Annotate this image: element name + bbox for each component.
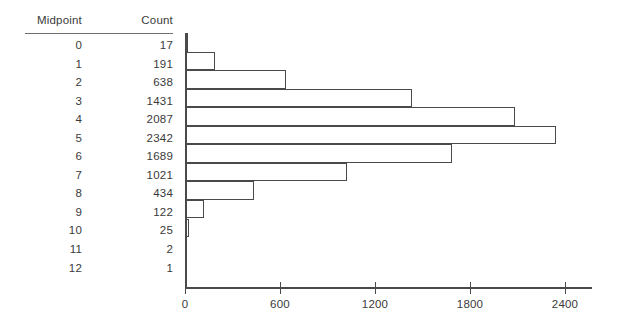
bar [185,144,452,163]
bar [185,200,204,219]
x-axis-tick-label: 1200 [345,298,405,310]
x-axis-tick-label: 2400 [535,298,595,310]
bar [185,163,347,182]
x-axis-tick [375,282,376,294]
x-axis-tick [470,282,471,294]
x-axis-tick [280,282,281,294]
bar [185,52,215,71]
bar [185,107,515,126]
x-axis-tick [185,282,186,294]
bar [185,126,556,145]
bar [185,89,412,108]
x-axis-tick [565,282,566,294]
bar [185,181,254,200]
x-axis-tick-label: 600 [250,298,310,310]
bar [185,70,286,89]
x-axis-tick-label: 1800 [440,298,500,310]
histogram-figure: Midpoint Count 0171191263831431420875234… [0,0,620,329]
chart-plot-area: 0600120018002400 [0,0,620,329]
y-axis-line [185,33,187,288]
x-axis-tick-label: 0 [155,298,215,310]
x-axis-line [185,287,592,289]
